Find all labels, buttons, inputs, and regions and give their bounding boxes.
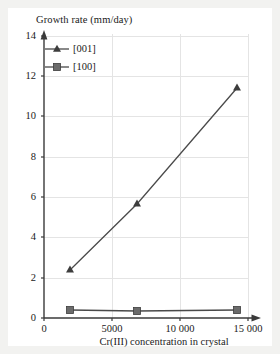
x-tick-label-10000: 10 000 xyxy=(154,323,206,334)
legend-item-100: [100] xyxy=(44,58,128,76)
data-point-marker xyxy=(134,308,141,315)
y-tick-label-0: 0 xyxy=(16,312,36,323)
x-tick-label-0: 0 xyxy=(18,323,70,334)
y-tick-label-8: 8 xyxy=(16,151,36,162)
y-tick-label-6: 6 xyxy=(16,191,36,202)
chart-page: Growth rate (mm/day) xyxy=(0,0,280,354)
y-tick-label-2: 2 xyxy=(16,272,36,283)
y-tick-label-14: 14 xyxy=(16,30,36,41)
plot-area xyxy=(0,0,280,354)
data-point-marker xyxy=(67,307,74,314)
x-tick-label-5000: 5000 xyxy=(86,323,138,334)
series-001 xyxy=(66,84,241,273)
legend: [001] [100] xyxy=(44,40,128,76)
x-axis-title: Cr(III) concentration in crystal xyxy=(0,336,280,348)
x-axis-line xyxy=(44,315,261,322)
data-point-marker xyxy=(234,307,241,314)
series-100 xyxy=(67,307,241,315)
vertical-gridlines xyxy=(112,34,248,318)
data-point-marker xyxy=(233,84,241,91)
y-tick-label-12: 12 xyxy=(16,70,36,81)
y-tick-label-10: 10 xyxy=(16,110,36,121)
x-tick-label-15000: 15 000 xyxy=(222,323,274,334)
triangle-marker-icon xyxy=(44,43,70,55)
legend-label-100: [100] xyxy=(73,61,96,73)
square-marker-icon xyxy=(44,61,70,73)
y-tick-label-4: 4 xyxy=(16,231,36,242)
legend-item-001: [001] xyxy=(44,40,128,58)
legend-label-001: [001] xyxy=(73,43,96,55)
